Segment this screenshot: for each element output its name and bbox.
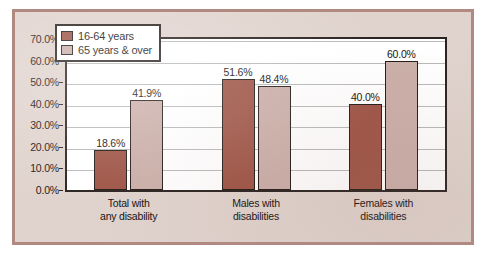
x-axis-category-label: Females withdisabilities	[354, 197, 413, 222]
x-axis-category-line: disabilities	[354, 210, 413, 223]
x-axis-category-line: disabilities	[232, 210, 280, 223]
legend-label: 16-64 years	[78, 30, 134, 42]
y-axis-tick-mark	[59, 190, 63, 191]
legend-item-0: 16-64 years	[61, 29, 152, 43]
chart-legend: 16-64 years65 years & over	[55, 24, 161, 62]
gridline	[67, 127, 445, 128]
y-axis-tick-mark	[59, 168, 63, 169]
x-axis-category-line: Total with	[100, 197, 157, 210]
gridline	[67, 63, 445, 64]
gridline	[67, 170, 445, 171]
gridline	[67, 106, 445, 107]
x-axis-category-line: any disability	[100, 210, 157, 223]
chart-card: 0.0%10.0%20.0%30.0%40.0%50.0%60.0%70.0% …	[12, 9, 474, 245]
y-axis-tick-mark	[59, 147, 63, 148]
x-axis-category-line: Males with	[232, 197, 280, 210]
x-axis-category-label: Males withdisabilities	[232, 197, 280, 222]
y-axis-tick-label: 0.0%	[36, 184, 59, 196]
y-axis-tick-label: 10.0%	[30, 162, 59, 174]
legend-swatch-icon	[61, 45, 73, 55]
legend-swatch-icon	[61, 31, 73, 41]
legend-label: 65 years & over	[78, 44, 152, 56]
y-axis-tick-mark	[59, 82, 63, 83]
y-axis-tick-label: 50.0%	[30, 76, 59, 88]
x-axis-category-label: Total withany disability	[100, 197, 157, 222]
x-axis: Total withany disabilityMales withdisabi…	[65, 195, 447, 239]
y-axis-tick-mark	[59, 104, 63, 105]
y-axis-tick-label: 20.0%	[30, 141, 59, 153]
y-axis-tick-label: 30.0%	[30, 119, 59, 131]
y-axis-tick-label: 40.0%	[30, 98, 59, 110]
gridline	[67, 84, 445, 85]
screenshot-page: 0.0%10.0%20.0%30.0%40.0%50.0%60.0%70.0% …	[0, 0, 492, 257]
x-axis-category-line: Females with	[354, 197, 413, 210]
legend-item-1: 65 years & over	[61, 43, 152, 57]
gridline	[67, 149, 445, 150]
y-axis-tick-mark	[59, 125, 63, 126]
